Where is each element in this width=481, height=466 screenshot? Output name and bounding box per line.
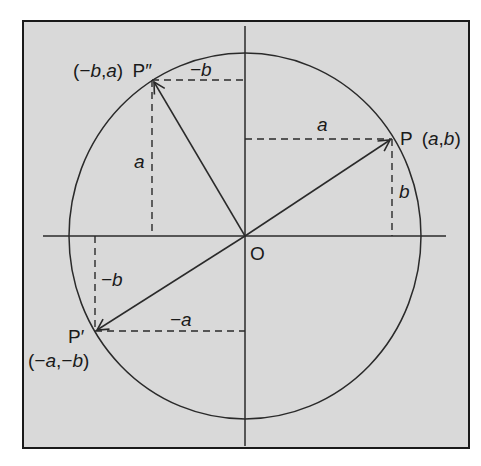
segment-label-b-right: b (399, 181, 410, 202)
origin-label: O (250, 243, 265, 264)
point-Pp-label: P′ (68, 326, 85, 347)
rotation-diagram: O P (a,b) a b (−b,a) P″ −b a P′ (−a,−b) … (0, 0, 481, 466)
segment-label-minus-b-left: −b (101, 269, 123, 290)
segment-label-minus-a-bottom: −a (170, 309, 192, 330)
point-Pdp-label: (−b,a) P″ (73, 60, 152, 81)
point-Pp-coords: (−a,−b) (28, 350, 89, 371)
segment-label-minus-b-top: −b (190, 59, 212, 80)
segment-label-a-top: a (317, 114, 328, 135)
segment-label-a-left: a (134, 151, 145, 172)
point-P-label: P (a,b) (400, 128, 461, 149)
